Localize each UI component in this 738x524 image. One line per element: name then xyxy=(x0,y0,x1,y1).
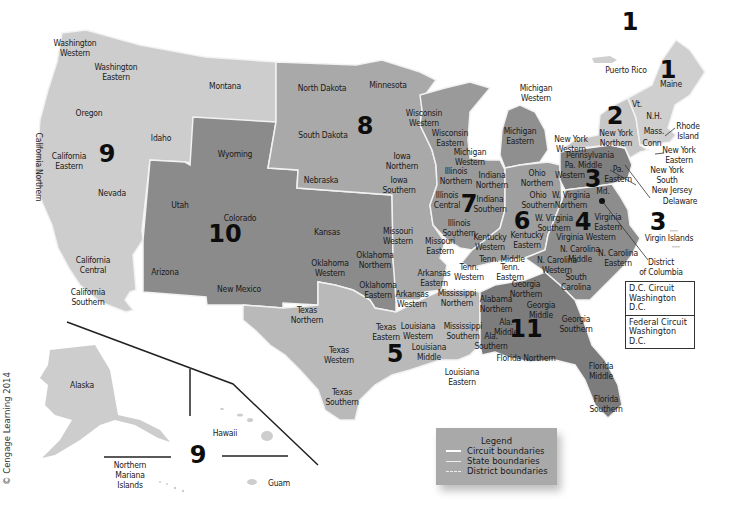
district-label: Vt. xyxy=(632,99,642,109)
district-label: Washington Western xyxy=(54,38,97,58)
puerto-rico-shape xyxy=(592,56,617,63)
district-label: Delaware xyxy=(663,196,697,206)
circuit-number: 2 xyxy=(607,104,624,128)
district-label: Kentucky Western xyxy=(473,232,506,252)
map-legend: Legend Circuit boundaries State boundari… xyxy=(436,428,557,485)
district-label: Tenn. Western xyxy=(454,262,484,282)
district-label: New York Western xyxy=(554,134,587,154)
district-label: Iowa Southern xyxy=(382,175,415,195)
district-label: Virginia Eastern xyxy=(594,212,622,232)
circuit-number: 9 xyxy=(99,142,116,166)
district-label: Arkansas Eastern xyxy=(417,268,450,288)
district-label: Guam xyxy=(268,478,290,488)
district-label: Alabama Northern xyxy=(480,294,512,314)
legend-item-district: District boundaries xyxy=(446,466,557,476)
circuit-number: 11 xyxy=(509,317,542,341)
district-label: Texas Eastern xyxy=(372,322,400,342)
district-label: Florida Southern xyxy=(589,394,622,414)
district-label: Pa. Eastern xyxy=(604,164,632,184)
district-label: Illinois Northern xyxy=(440,166,472,186)
district-label: Indiana Southern xyxy=(473,194,506,214)
district-label: Missouri Western xyxy=(383,226,413,246)
district-label: New Jersey xyxy=(652,185,692,195)
legend-item-state: State boundaries xyxy=(446,456,557,466)
district-label: California Eastern xyxy=(52,151,86,171)
district-label: Arizona xyxy=(151,267,178,277)
district-label: Kansas xyxy=(314,227,340,237)
district-label: W. Virginia Northern xyxy=(552,190,590,210)
legend-item-label: District boundaries xyxy=(467,466,548,476)
district-label: Washington Eastern xyxy=(95,62,138,82)
district-label: New York Northern xyxy=(599,128,632,148)
district-label: Wisconsin Western xyxy=(406,108,442,128)
circuit-number: 6 xyxy=(514,209,531,233)
circuit-number: 1 xyxy=(660,58,677,82)
district-label: Alaska xyxy=(70,380,94,390)
circuit-number: 3 xyxy=(585,167,602,191)
district-label: Rhode Island xyxy=(676,121,699,141)
district-label: Florida Middle xyxy=(589,361,614,381)
district-label: Oklahoma Northern xyxy=(356,250,393,270)
district-label: Puerto Rico xyxy=(605,65,646,75)
copyright-text: © Cengage Learning 2014 xyxy=(2,372,12,485)
circuit-number: 9 xyxy=(190,443,207,467)
district-label: Nevada xyxy=(98,188,126,198)
legend-item-circuit: Circuit boundaries xyxy=(446,446,557,456)
district-label: Michigan Western xyxy=(454,147,487,167)
district-label: Hawaii xyxy=(213,428,237,438)
circuit-number: 10 xyxy=(208,222,241,246)
district-label: Idaho xyxy=(151,133,171,143)
district-label: California Southern xyxy=(71,287,105,307)
district-label: Missouri Eastern xyxy=(425,236,455,256)
circuit-number: 8 xyxy=(357,114,374,138)
legend-item-label: Circuit boundaries xyxy=(467,446,545,456)
district-label: Northern Mariana Islands xyxy=(114,460,146,490)
circuit-number: 7 xyxy=(461,192,478,216)
california-northern-label: California Northern xyxy=(34,133,44,202)
circuit-number: 3 xyxy=(650,210,667,234)
district-label: Louisiana Eastern xyxy=(445,367,479,387)
district-label: Michigan Eastern xyxy=(504,126,537,146)
district-label: Pa. Western xyxy=(555,160,585,180)
district-label: Oklahoma Western xyxy=(311,258,348,278)
circuit-number: 4 xyxy=(575,210,592,234)
alaska-shape xyxy=(40,345,170,458)
district-label: North Dakota xyxy=(298,83,346,93)
district-label: Georgia Northern xyxy=(510,279,542,299)
district-label: Texas Northern xyxy=(291,305,323,325)
circuit-boundary-swatch xyxy=(446,450,461,452)
district-label: Michigan Western xyxy=(520,83,553,103)
district-label: New York Eastern xyxy=(662,145,695,165)
guam-shape xyxy=(247,479,257,485)
district-label: Florida Northern xyxy=(496,353,555,363)
district-label: Mississippi Northern xyxy=(438,288,477,308)
district-boundary-swatch xyxy=(446,471,461,472)
district-label: South Carolina xyxy=(561,272,591,292)
dc-circuit-box: D.C. Circuit Washington D.C. Federal Cir… xyxy=(625,281,695,349)
district-label: Illinois Central xyxy=(434,190,460,210)
district-label: Oklahoma Eastern xyxy=(359,280,396,300)
district-label: Wisconsin Eastern xyxy=(432,128,468,148)
district-label: Louisiana Western xyxy=(401,321,435,341)
district-label: Mass. xyxy=(644,126,665,136)
district-label: W. Virginia Southern xyxy=(535,213,573,233)
district-label: Georgia Southern xyxy=(559,314,592,334)
district-label: Utah xyxy=(171,200,188,210)
legend-title: Legend xyxy=(436,436,557,446)
district-label: Minnesota xyxy=(369,80,407,90)
district-label: Indiana Northern xyxy=(476,170,508,190)
state-boundary-swatch xyxy=(446,461,461,462)
dc-circuit-label: D.C. Circuit Washington D.C. xyxy=(626,282,694,315)
district-label: Texas Southern xyxy=(325,387,358,407)
district-label: N.H. xyxy=(646,111,661,121)
district-label: Ala. Southern xyxy=(474,331,507,351)
district-label: New Mexico xyxy=(217,284,261,294)
district-label: District of Columbia xyxy=(639,257,683,277)
district-label: South Dakota xyxy=(298,130,347,140)
federal-circuit-label: Federal Circuit Washington D.C. xyxy=(626,315,694,349)
circuit-number: 1 xyxy=(622,10,639,34)
district-label: Ohio Northern xyxy=(521,168,553,188)
district-label: Oregon xyxy=(76,108,103,118)
northern-mariana-islands xyxy=(159,481,184,492)
district-label: California Central xyxy=(76,255,110,275)
